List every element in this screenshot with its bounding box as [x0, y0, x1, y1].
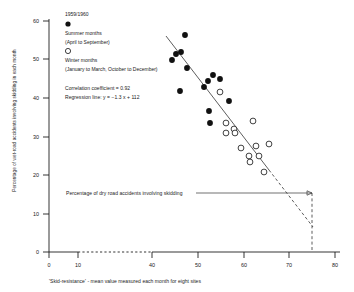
data-point: [246, 153, 252, 159]
data-point: [217, 89, 223, 95]
legend-summer-sublabel: (April to September): [65, 39, 110, 45]
data-point: [247, 159, 253, 165]
data-point: [226, 98, 232, 104]
dry-road-reference-annotation: Percentage of dry road accidents involvi…: [66, 190, 312, 252]
scatter-plot-canvas: 60 50 40 30 20 10 0: [0, 0, 354, 292]
y-axis-ticks: [43, 21, 49, 252]
data-point: [223, 120, 229, 126]
data-point: [238, 145, 244, 151]
data-point: [256, 153, 262, 159]
legend-winter-marker-icon: [65, 48, 70, 53]
legend-winter-label: Winter months: [65, 57, 98, 63]
legend-title: 1959/1960: [65, 11, 89, 17]
data-point: [201, 84, 207, 90]
x-tick-70: 70: [286, 262, 292, 268]
x-tick-10: 10: [75, 262, 81, 268]
data-point: [223, 130, 229, 136]
y-tick-50: 50: [33, 56, 39, 62]
y-axis: 60 50 40 30 20 10 0: [33, 18, 49, 255]
x-tick-50: 50: [195, 262, 201, 268]
x-tick-80: 80: [332, 262, 338, 268]
data-point: [253, 143, 259, 149]
x-axis-tick-labels: 0 10 40 50 60 70 80: [48, 262, 339, 268]
legend-summer-marker-icon: [65, 21, 70, 26]
x-tick-40: 40: [149, 262, 155, 268]
data-point: [169, 57, 175, 63]
x-axis-label: 'Skid-resistance' - mean value measured …: [49, 278, 201, 284]
y-tick-20: 20: [33, 172, 39, 178]
data-point: [232, 130, 238, 136]
x-axis: 0 10 40 50 60 70 80 'Skid-resistance' - …: [48, 252, 341, 284]
legend-winter-sublabel: (January to March, October to December): [65, 66, 158, 72]
data-point: [177, 88, 183, 94]
data-point: [206, 108, 212, 114]
regression-line: [166, 36, 313, 227]
data-point: [184, 65, 190, 71]
y-tick-30: 30: [33, 134, 39, 140]
y-tick-40: 40: [33, 95, 39, 101]
x-tick-60: 60: [241, 262, 247, 268]
correlation-coefficient-label: Correlation coefficient = 0.92: [65, 85, 130, 91]
legend-summer-label: Summer months: [65, 30, 102, 36]
y-tick-60: 60: [33, 18, 39, 24]
y-tick-10: 10: [33, 211, 39, 217]
regression-line-label: Regression line: y = −1.3 x + 112: [65, 94, 140, 100]
dry-road-reference-label: Percentage of dry road accidents involvi…: [66, 190, 183, 196]
data-point: [182, 32, 188, 38]
y-axis-tick-labels: 60 50 40 30 20 10 0: [33, 18, 39, 255]
data-point: [217, 76, 223, 82]
legend: 1959/1960 Summer months (April to Septem…: [65, 11, 158, 72]
data-point: [205, 78, 211, 84]
chart-figure: Percentage of wet-road accidents involvi…: [0, 0, 354, 292]
data-point: [173, 51, 179, 57]
data-point: [210, 72, 216, 78]
stats-annotation: Correlation coefficient = 0.92 Regressio…: [65, 85, 140, 100]
data-point: [261, 169, 267, 175]
data-point: [207, 120, 213, 126]
series-summer-points: [169, 32, 232, 126]
x-tick-0: 0: [48, 262, 51, 268]
x-axis-ticks: [49, 252, 335, 258]
series-winter-points: [217, 89, 272, 175]
data-point: [178, 49, 184, 55]
data-point: [250, 118, 256, 124]
y-tick-0: 0: [36, 249, 39, 255]
data-point: [266, 141, 272, 147]
